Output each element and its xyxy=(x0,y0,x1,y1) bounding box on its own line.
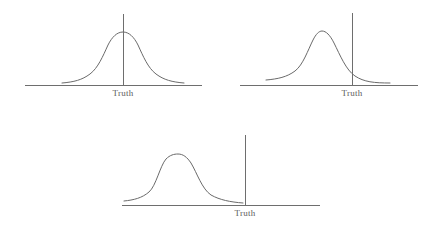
truth-label-large-bias: Truth xyxy=(234,209,255,218)
panel-large-bias: Truth xyxy=(110,125,330,226)
panel-unbiased: Truth xyxy=(0,0,215,105)
bias-illustration-figure: Truth Truth Truth xyxy=(0,0,435,226)
truth-label-slight-bias: Truth xyxy=(341,89,362,98)
panel-large-bias-plot xyxy=(110,125,330,226)
distribution-curve-large-bias xyxy=(124,154,243,203)
truth-label-unbiased: Truth xyxy=(112,89,133,98)
distribution-curve-slight-bias xyxy=(266,31,390,83)
panel-slight-bias: Truth xyxy=(232,0,435,105)
panel-slight-bias-plot xyxy=(232,0,435,105)
panel-unbiased-plot xyxy=(0,0,215,105)
